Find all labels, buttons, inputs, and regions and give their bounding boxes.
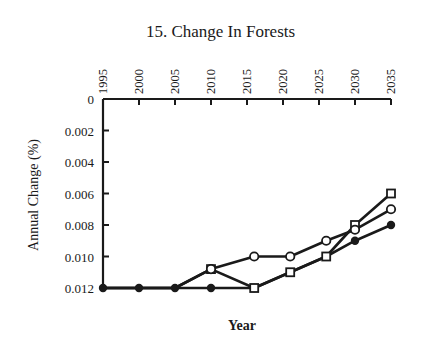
open-circle-marker <box>351 226 359 234</box>
x-tick-label: 2020 <box>276 69 290 94</box>
open-circle-marker <box>286 252 294 260</box>
y-tick-label: 0.010 <box>65 250 94 265</box>
x-tick-label: 2025 <box>312 69 326 94</box>
y-tick-label: 0.008 <box>65 218 94 233</box>
open-square-marker <box>250 284 258 292</box>
filled-circle-marker <box>387 221 395 229</box>
open-square-marker <box>286 268 294 276</box>
open-square-marker <box>322 253 330 261</box>
y-tick-label: 0.006 <box>65 187 95 202</box>
x-tick-label: 2030 <box>348 69 362 94</box>
filled-circle-marker <box>207 284 215 292</box>
x-tick-label: 1995 <box>96 69 110 94</box>
x-tick-label: 2015 <box>240 69 254 94</box>
filled-circle-marker <box>351 237 359 245</box>
line-chart-plot: 19952000200520102015202020252030203500.0… <box>0 0 421 345</box>
open-circle-marker <box>387 205 395 213</box>
y-tick-label: 0 <box>88 92 95 107</box>
x-tick-label: 2000 <box>132 69 146 94</box>
filled-circle-marker <box>171 284 179 292</box>
series-line-open-square <box>103 194 391 289</box>
y-tick-label: 0.002 <box>65 124 94 139</box>
open-circle-marker <box>207 265 215 273</box>
filled-circle-marker <box>135 284 143 292</box>
open-circle-marker <box>250 252 258 260</box>
y-tick-label: 0.004 <box>65 155 95 170</box>
open-circle-marker <box>322 237 330 245</box>
series-line-open-circle <box>103 209 391 288</box>
filled-circle-marker <box>99 284 107 292</box>
x-tick-label: 2005 <box>168 69 182 94</box>
open-square-marker <box>387 190 395 198</box>
x-tick-label: 2035 <box>384 69 398 94</box>
y-tick-label: 0.012 <box>65 281 94 296</box>
x-tick-label: 2010 <box>204 69 218 94</box>
